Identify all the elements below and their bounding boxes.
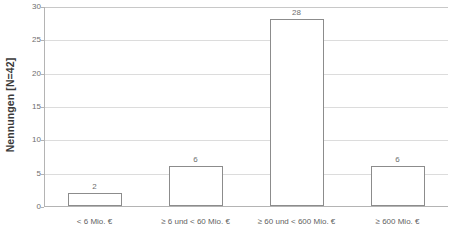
y-axis-tick — [41, 107, 44, 108]
y-axis-tick — [41, 174, 44, 175]
bar-chart: Nennungen [N=42] 051015202530 26286 < 6 … — [0, 0, 453, 234]
bar — [68, 193, 122, 206]
y-axis-tick — [41, 74, 44, 75]
y-axis-tick — [41, 140, 44, 141]
x-axis-line — [44, 206, 448, 207]
y-axis-tick-label: 25 — [20, 36, 41, 44]
gridline — [45, 40, 448, 41]
bar — [371, 166, 425, 206]
plot-area: 26286 — [44, 7, 448, 207]
x-axis-category-label: ≥ 60 und < 600 Mio. € — [246, 217, 347, 226]
plot-top-border — [44, 7, 448, 8]
bar-value-label: 28 — [270, 8, 324, 17]
bar-value-label: 6 — [371, 155, 425, 164]
y-axis-tick-label: 20 — [20, 70, 41, 78]
gridline — [45, 74, 448, 75]
y-axis-title-text: Nennungen [N=42] — [4, 58, 16, 153]
y-axis-tick-label: 0 — [20, 203, 41, 211]
y-axis-tick — [41, 7, 44, 8]
x-axis-category-label: < 6 Mio. € — [44, 217, 145, 226]
x-axis-category-labels: < 6 Mio. €≥ 6 und < 60 Mio. €≥ 60 und < … — [44, 209, 448, 234]
x-axis-category-label: ≥ 600 Mio. € — [347, 217, 448, 226]
bar-value-label: 6 — [169, 155, 223, 164]
y-axis-title: Nennungen [N=42] — [0, 0, 20, 210]
bar — [270, 19, 324, 206]
y-axis-tick — [41, 207, 44, 208]
y-axis-tick-label: 10 — [20, 136, 41, 144]
y-axis-tick — [41, 40, 44, 41]
bar — [169, 166, 223, 206]
y-axis-tick-label: 30 — [20, 3, 41, 11]
y-axis-tick-labels: 051015202530 — [20, 0, 41, 207]
y-axis-tick-label: 5 — [20, 170, 41, 178]
gridline — [45, 107, 448, 108]
bar-value-label: 2 — [68, 182, 122, 191]
gridline — [45, 140, 448, 141]
x-axis-category-label: ≥ 6 und < 60 Mio. € — [145, 217, 246, 226]
y-axis-tick-label: 15 — [20, 103, 41, 111]
